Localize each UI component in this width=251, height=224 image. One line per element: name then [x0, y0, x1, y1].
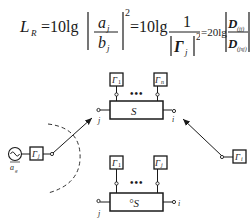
bottom-load-j-sub: j	[160, 162, 163, 168]
switch-arrow-left	[53, 118, 92, 153]
switch-arc	[48, 124, 80, 193]
formula-eq3-visible: =20lg	[201, 26, 227, 38]
bottom-port-i: i	[178, 199, 180, 208]
top-load-1: Γ	[111, 75, 118, 85]
right-load-label: Γ	[234, 152, 241, 162]
bottom-dots: •••	[130, 177, 144, 188]
top-load-n: Γ	[154, 75, 161, 85]
formula-frac3: D (jj) D (jsj) =20lg	[200, 10, 251, 60]
bottom-s-label: °S	[129, 197, 139, 209]
source-load-sub: j	[37, 153, 40, 159]
bottom-load-j: Γ	[154, 158, 161, 168]
bottom-port-j: j	[97, 209, 101, 218]
bottom-network: °S Γ 1 Γ j ••• j i	[97, 156, 180, 218]
top-dots: •••	[130, 88, 144, 99]
top-s-box	[110, 101, 163, 119]
source: Γ j a g	[9, 118, 93, 193]
top-load-n-sub: n	[161, 79, 164, 85]
bottom-load-1: Γ	[111, 158, 118, 168]
bottom-load-1-sub: 1	[118, 162, 121, 168]
source-load: Γ	[31, 149, 38, 159]
top-port-i: i	[172, 115, 174, 124]
source-label: a	[10, 163, 14, 172]
source-label-sub: g	[15, 168, 18, 173]
top-s-label: S	[131, 105, 137, 117]
network-diagram: S Γ 1 Γ n ••• j i Γ j a g	[0, 0, 251, 224]
top-network: S Γ 1 Γ n ••• j i	[97, 73, 176, 125]
switch-arrow-right	[183, 119, 222, 156]
frac3-den-sub: (jsj)	[237, 46, 247, 53]
top-load-1-sub: 1	[118, 79, 121, 85]
right-load: Γ i	[183, 119, 246, 163]
top-port-j: j	[97, 116, 101, 125]
